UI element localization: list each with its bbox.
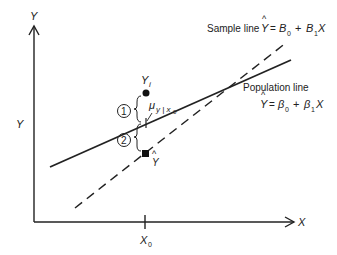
x0-label: X	[139, 234, 148, 246]
svg-text:β: β	[303, 98, 311, 110]
svg-text:Y: Y	[260, 98, 268, 110]
regression-diagram: Y Y X X 0 Sample line ^ Y = B 0 + B 1 X …	[0, 0, 337, 255]
brace-2-icon	[134, 124, 141, 151]
svg-text:B: B	[279, 22, 286, 34]
yi-subscript: i	[149, 80, 151, 89]
svg-text:=: =	[270, 23, 276, 34]
svg-text:β: β	[277, 98, 285, 110]
yi-point	[143, 90, 150, 97]
svg-text:+: +	[293, 98, 299, 110]
y-axis-top-label: Y	[30, 10, 38, 22]
svg-text:=: =	[269, 99, 275, 110]
mu-subscript: y | x	[155, 105, 172, 114]
svg-text:0: 0	[285, 106, 289, 113]
svg-text:X: X	[317, 22, 326, 34]
svg-text:+: +	[295, 22, 301, 34]
mu-pointer	[147, 113, 152, 121]
svg-text:1: 1	[311, 106, 315, 113]
population-line-equation: ^ Y = β 0 + β 1 X	[260, 90, 324, 113]
sample-line	[75, 42, 287, 208]
sample-line-equation: ^ Y = B 0 + B 1 X	[261, 14, 326, 37]
yi-label: Y	[141, 74, 149, 86]
yhat-point	[142, 150, 149, 157]
circle-2-label: 2	[121, 135, 127, 146]
circle-1-label: 1	[121, 106, 127, 117]
sample-line-label: Sample line	[207, 23, 260, 34]
population-line-label: Population line	[243, 82, 309, 93]
x0-subscript: 0	[148, 241, 152, 248]
svg-text:0: 0	[287, 30, 291, 37]
svg-text:X: X	[315, 98, 324, 110]
x-axis-label: X	[297, 216, 306, 228]
svg-text:Y: Y	[261, 22, 269, 34]
y-axis-side-label: Y	[16, 118, 24, 130]
mu-label: μ	[148, 99, 155, 111]
brace-1-icon	[134, 96, 141, 122]
yhat-label: Y	[152, 157, 160, 168]
svg-text:B: B	[306, 22, 313, 34]
